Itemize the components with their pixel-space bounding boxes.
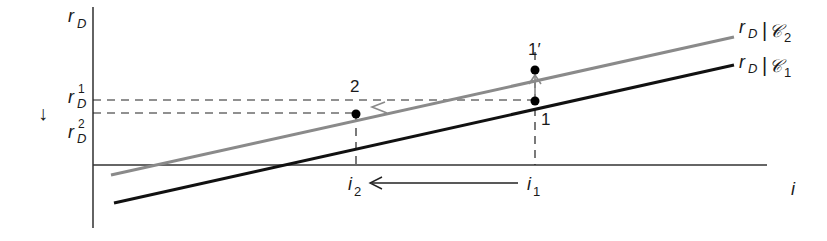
curve-rD-given-C2 [111,37,734,175]
left-arrow-along-curve-icon [372,102,387,113]
curve-label-C2: r D | 𝒞 2 [739,17,791,45]
svg-text:r: r [739,52,746,72]
svg-text:r: r [68,87,75,107]
diagram-svg: 1′ 1 2 r D r D 1 r D 2 ↓ i 2 i 1 i r D |… [0,0,827,241]
svg-text:D: D [748,26,757,41]
svg-text:r: r [68,122,75,142]
svg-text:2: 2 [354,184,361,199]
x-tick-i2: i 2 [348,174,361,199]
svg-text:1: 1 [784,65,791,80]
point-2 [352,110,361,119]
svg-text:D: D [77,131,86,146]
y-tick-rD2: r D 2 [68,117,86,146]
curve-label-C1: r D | 𝒞 1 [739,52,791,80]
svg-text:2: 2 [78,117,85,131]
point-label-2: 2 [350,77,359,96]
point-label-1: 1 [541,110,550,129]
svg-text:i: i [348,174,353,194]
svg-text:|: | [762,54,767,76]
left-arrow-i1-to-i2-icon [370,177,518,189]
svg-text:1: 1 [78,82,85,96]
y-tick-rD1: r D 1 [68,82,86,111]
point-1-prime [531,66,540,75]
svg-text:2: 2 [784,30,791,45]
diagram-canvas: 1′ 1 2 r D r D 1 r D 2 ↓ i 2 i 1 i r D |… [0,0,827,241]
point-label-1-prime: 1′ [528,40,541,59]
svg-text:i: i [527,174,532,194]
down-arrow-icon: ↓ [38,102,48,124]
svg-text:r: r [739,17,746,37]
point-1 [531,97,540,106]
svg-text:D: D [77,96,86,111]
svg-text:r: r [68,6,75,26]
svg-text:D: D [77,16,86,31]
up-arrow-icon [529,75,541,97]
svg-text:D: D [748,61,757,76]
x-axis-label: i [791,179,796,199]
svg-text:1: 1 [533,184,540,199]
x-tick-i1: i 1 [527,174,540,199]
y-axis-label: r D [68,6,86,31]
svg-text:|: | [762,19,767,41]
